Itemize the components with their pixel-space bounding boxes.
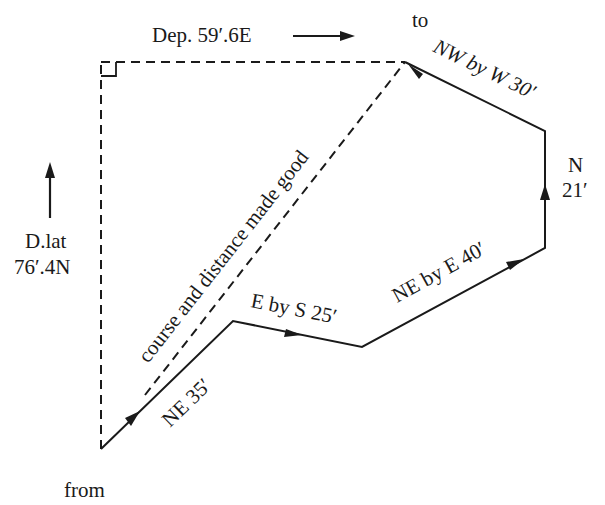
start-label: from: [64, 478, 105, 502]
departure-label: Dep. 59′.6E: [152, 23, 252, 47]
leg-4-arrow-icon: [540, 184, 550, 200]
leg-2-label: E by S 25′: [249, 288, 339, 328]
dlat-arrow-icon: [45, 162, 55, 178]
leg-2-arrow-icon: [284, 329, 302, 337]
leg-3-label: NE by E 40′: [388, 236, 490, 307]
leg-4-label-line1: N: [568, 153, 583, 177]
right-angle-marker: [101, 62, 116, 76]
dlat-label-line1: D.lat: [25, 229, 67, 253]
leg-4-label-line2: 21′: [562, 178, 588, 202]
leg-5-label: NW by W 30′: [429, 33, 540, 103]
leg-1-label: NE 35′: [157, 373, 216, 431]
traverse-diagram: Dep. 59′.6E to from D.lat 76′.4N course …: [0, 0, 605, 505]
dlat-label-line2: 76′.4N: [14, 255, 71, 279]
departure-arrow-icon: [340, 31, 355, 41]
end-label: to: [412, 8, 428, 32]
